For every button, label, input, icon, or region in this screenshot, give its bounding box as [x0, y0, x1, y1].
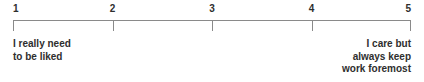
tick-label-4: 4: [309, 2, 315, 15]
tick-label-2: 2: [110, 2, 116, 15]
tick-label-3: 3: [209, 2, 215, 15]
tick-mark-1[interactable]: [13, 20, 14, 31]
tick-mark-5[interactable]: [410, 20, 411, 31]
anchor-label-high: I care but always keep work foremost: [261, 38, 411, 76]
likert-scale-widget: 1 2 3 4 5 I really need to be liked I ca…: [0, 0, 424, 82]
anchor-label-low: I really need to be liked: [13, 38, 163, 63]
tick-label-1: 1: [13, 2, 19, 15]
tick-label-row: 1 2 3 4 5: [0, 2, 424, 18]
tick-label-5: 5: [405, 2, 411, 15]
tick-mark-2[interactable]: [113, 20, 114, 31]
tick-mark-4[interactable]: [312, 20, 313, 31]
tick-mark-3[interactable]: [212, 20, 213, 31]
tick-mark-row: [0, 20, 424, 32]
